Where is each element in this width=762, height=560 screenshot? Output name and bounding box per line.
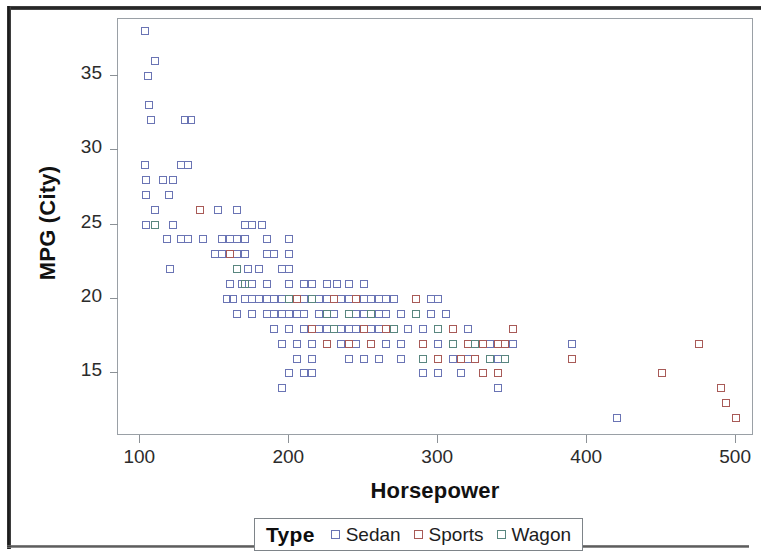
legend-item-sedan[interactable]: Sedan [331,524,401,546]
data-point-wagon [233,265,241,273]
data-point-sedan [241,250,249,258]
data-point-wagon [434,325,442,333]
data-point-sedan [285,250,293,258]
data-point-sedan [382,340,390,348]
data-point-sports [732,414,740,422]
data-point-sports [717,384,725,392]
data-point-sedan [397,340,405,348]
data-point-sports [330,295,338,303]
data-point-sedan [226,280,234,288]
data-point-sports [722,399,730,407]
data-point-sedan [141,27,149,35]
legend-label: Wagon [512,524,572,546]
data-point-sedan [147,116,155,124]
data-point-sedan [145,101,153,109]
y-axis-tick-label: 25 [58,211,102,233]
data-point-sedan [163,235,171,243]
data-point-sedan [404,325,412,333]
data-point-sedan [360,355,368,363]
data-point-sports [323,340,331,348]
data-point-sedan [323,280,331,288]
data-point-sedan [285,280,293,288]
data-point-sedan [457,369,465,377]
data-point-sedan [159,176,167,184]
data-point-sedan [187,116,195,124]
legend-item-sports[interactable]: Sports [414,524,484,546]
data-point-sedan [360,280,368,288]
data-point-sedan [144,72,152,80]
data-point-sedan [293,340,301,348]
data-point-sedan [258,221,266,229]
data-point-wagon [390,325,398,333]
y-axis-tick-mark [110,224,118,225]
data-point-sedan [151,206,159,214]
x-axis-tick-label: 400 [551,446,621,468]
data-point-wagon [241,280,249,288]
data-point-sedan [285,369,293,377]
data-point-wagon [285,295,293,303]
data-point-wagon [308,295,316,303]
data-point-wagon [330,325,338,333]
data-point-sports [479,369,487,377]
data-point-sedan [509,340,517,348]
data-point-wagon [412,310,420,318]
data-point-sedan [142,221,150,229]
legend-label: Sports [429,524,484,546]
data-point-sedan [293,355,301,363]
data-point-sedan [263,280,271,288]
x-axis-tick-label: 300 [402,446,472,468]
x-axis-tick-label: 200 [253,446,323,468]
data-point-sedan [142,176,150,184]
data-point-sedan [244,265,252,273]
data-point-sedan [142,191,150,199]
data-point-sedan [278,384,286,392]
data-point-sedan [141,161,149,169]
scatter-plot-figure: MPG (City) Horsepower Type SedanSportsWa… [11,10,762,555]
data-point-sedan [330,310,338,318]
data-point-sedan [270,325,278,333]
y-axis-tick-mark [110,149,118,150]
data-point-sedan [568,340,576,348]
data-point-sedan [434,295,442,303]
x-axis-tick-mark [586,435,587,443]
data-point-sports [360,325,368,333]
y-axis-tick-label: 35 [58,62,102,84]
data-point-sedan [169,176,177,184]
legend-title: Type [266,523,315,547]
data-point-sedan [419,369,427,377]
data-point-sports [449,325,457,333]
data-point-sedan [270,250,278,258]
data-point-sports [501,340,509,348]
data-point-sports [412,295,420,303]
data-point-sedan [419,325,427,333]
data-point-sports [345,340,353,348]
data-point-sedan [397,355,405,363]
data-point-sports [494,369,502,377]
plot-area [117,18,753,435]
data-point-sedan [248,280,256,288]
legend-label: Sedan [346,524,401,546]
data-point-sports [308,325,316,333]
legend-swatch-wagon-icon [497,530,506,539]
data-point-sedan [345,355,353,363]
data-point-sedan [255,265,263,273]
legend-item-wagon[interactable]: Wagon [497,524,572,546]
x-axis-tick-label: 100 [104,446,174,468]
data-point-sedan [233,206,241,214]
data-point-sedan [397,310,405,318]
x-axis-tick-mark [735,435,736,443]
data-point-sedan [166,265,174,273]
data-point-sports [695,340,703,348]
data-point-wagon [151,221,159,229]
data-point-sedan [184,161,192,169]
data-point-sports [479,340,487,348]
y-axis-tick-mark [110,298,118,299]
y-axis-tick-mark [110,372,118,373]
data-point-sedan [229,295,237,303]
data-point-wagon [323,310,331,318]
data-point-sedan [613,414,621,422]
data-point-sedan [382,310,390,318]
data-point-sedan [427,310,435,318]
data-point-sports [367,340,375,348]
y-axis-tick-label: 20 [58,285,102,307]
